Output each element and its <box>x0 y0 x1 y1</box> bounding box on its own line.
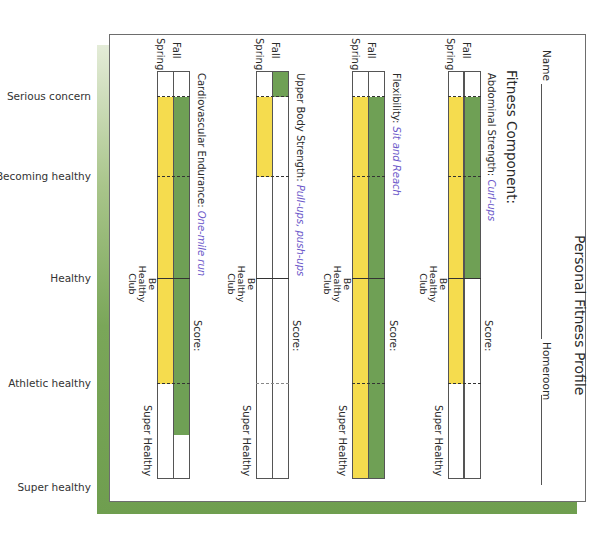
becoming-line <box>157 176 190 177</box>
spring-label: Spring <box>350 38 361 70</box>
becoming-line <box>448 176 481 177</box>
fitness-component-label: Fitness Component: <box>504 70 520 204</box>
component-test: Curl-ups <box>486 179 497 221</box>
component-name: Upper Body Strength: <box>295 73 306 182</box>
name-label: Name <box>541 50 553 81</box>
component-title: Cardiovascular Endurance: One-mile run <box>196 73 207 276</box>
fall-fill <box>273 72 288 97</box>
super-healthy-label: Super Healthy <box>241 405 252 476</box>
fall-column <box>272 71 289 479</box>
score-label[interactable]: Score: <box>291 320 302 351</box>
serious-line <box>157 96 190 97</box>
fall-column <box>464 71 481 479</box>
spring-column <box>448 71 464 479</box>
fall-column <box>173 71 190 479</box>
athletic-line <box>448 383 481 384</box>
athletic-line <box>352 383 385 384</box>
component-name: Abdominal Strength: <box>486 73 497 176</box>
fall-label: Fall <box>270 42 281 59</box>
score-label[interactable]: Score: <box>483 320 494 351</box>
fall-fill <box>465 97 480 279</box>
spring-label: Spring <box>445 38 456 70</box>
spring-fill <box>158 97 173 384</box>
component-name: Flexibility: <box>391 73 402 123</box>
healthy-line <box>352 278 385 279</box>
component-title: Upper Body Strength: Pull-ups, push-ups <box>295 73 306 276</box>
level-becoming-healthy: Becoming healthy <box>0 170 91 182</box>
healthy-line <box>448 278 481 279</box>
component-test: One-mile run <box>196 211 207 276</box>
spring-column <box>352 71 369 479</box>
becoming-line <box>352 176 385 177</box>
component-title: Abdominal Strength: Curl-ups <box>486 73 497 221</box>
be-healthy-club-label: Be Healthy Club <box>127 264 157 304</box>
healthy-line <box>157 278 190 279</box>
fall-label: Fall <box>461 42 472 59</box>
form-title: Personal Fitness Profile <box>572 235 588 395</box>
spring-column <box>157 71 174 479</box>
component-title: Flexibility: Sit and Reach <box>391 73 402 196</box>
fall-fill <box>174 97 189 435</box>
level-healthy: Healthy <box>50 272 91 284</box>
athletic-line <box>157 383 190 384</box>
becoming-line <box>256 176 289 177</box>
level-athletic-healthy: Athletic healthy <box>8 377 91 389</box>
homeroom-line[interactable] <box>541 395 542 485</box>
spring-fill <box>353 97 368 478</box>
component-test: Pull-ups, push-ups <box>295 185 306 277</box>
athletic-line <box>256 383 289 384</box>
spring-fill <box>257 97 272 177</box>
fall-column <box>368 71 385 479</box>
fall-label: Fall <box>366 42 377 59</box>
healthy-line <box>256 278 289 279</box>
fall-fill <box>369 97 384 478</box>
serious-line <box>448 96 481 97</box>
homeroom-label: Homeroom <box>541 339 553 403</box>
level-serious-concern: Serious concern <box>7 90 91 102</box>
be-healthy-club-label: Be Healthy Club <box>418 264 448 304</box>
score-label[interactable]: Score: <box>192 320 203 351</box>
spring-column <box>256 71 273 479</box>
fall-label: Fall <box>171 42 182 59</box>
be-healthy-club-label: Be Healthy Club <box>322 264 352 304</box>
level-super-healthy: Super healthy <box>17 481 91 493</box>
component-name: Cardiovascular Endurance: <box>196 73 207 208</box>
super-healthy-label: Super Healthy <box>337 405 348 476</box>
super-healthy-label: Super Healthy <box>433 405 444 476</box>
component-test: Sit and Reach <box>391 127 402 196</box>
serious-line <box>352 96 385 97</box>
spring-label: Spring <box>155 38 166 70</box>
be-healthy-club-label: Be Healthy Club <box>226 264 256 304</box>
serious-line <box>256 96 289 97</box>
super-healthy-label: Super Healthy <box>142 405 153 476</box>
spring-label: Spring <box>254 38 265 70</box>
score-label[interactable]: Score: <box>388 320 399 351</box>
spring-fill <box>449 97 463 384</box>
